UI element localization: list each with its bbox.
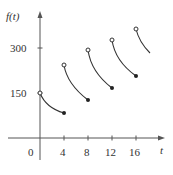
segment-2: [64, 65, 88, 100]
filled-dot-icon: [134, 74, 138, 78]
x-axis-arrow-icon: [158, 136, 165, 141]
x-tick-label-12: 12: [105, 146, 116, 158]
curve-segments: [40, 29, 150, 113]
y-tick-label-150: 150: [10, 87, 27, 99]
open-endpoints: [38, 27, 138, 95]
open-circle-icon: [134, 27, 138, 31]
filled-dot-icon: [110, 86, 114, 90]
y-axis-label: f(t): [6, 10, 20, 23]
open-circle-icon: [62, 63, 66, 67]
y-axis-arrow-icon: [38, 11, 43, 18]
chart: f(t) t 0 4 8 12 16 300 150: [0, 0, 173, 175]
filled-dot-icon: [62, 111, 66, 115]
segment-5: [136, 29, 150, 53]
x-tick-label-4: 4: [60, 146, 66, 158]
x-axis-label: t: [160, 144, 164, 156]
filled-dot-icon: [86, 98, 90, 102]
open-circle-icon: [110, 38, 114, 42]
open-circle-icon: [86, 48, 90, 52]
x-tick-label-8: 8: [84, 146, 90, 158]
y-tick-label-300: 300: [10, 42, 27, 54]
x-tick-label-16: 16: [129, 146, 141, 158]
segment-4: [112, 40, 136, 76]
filled-endpoints: [62, 74, 138, 115]
segment-3: [88, 50, 112, 88]
origin-label: 0: [28, 146, 34, 158]
segment-1: [40, 93, 64, 113]
open-circle-icon: [38, 91, 42, 95]
